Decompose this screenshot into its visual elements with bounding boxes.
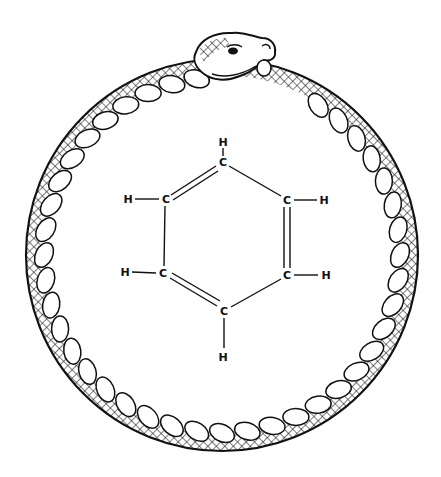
atom-c3: C <box>283 269 291 282</box>
atom-h6: H <box>123 193 132 206</box>
atom-c2: C <box>283 194 291 207</box>
serpent-head <box>194 33 275 80</box>
bonds <box>132 148 318 348</box>
benzene-molecule: C C C C C C H H H H H H <box>120 136 330 364</box>
ouroboros-illustration: C C C C C C H H H H H H <box>0 0 441 477</box>
serpent-eye-icon <box>228 48 238 55</box>
atom-c4: C <box>220 305 228 318</box>
atom-h2: H <box>319 194 328 207</box>
serpent-body <box>26 59 418 451</box>
atom-h1: H <box>218 136 227 149</box>
atom-h4: H <box>218 351 227 364</box>
belly-scale <box>283 408 309 425</box>
atom-h3: H <box>321 269 330 282</box>
belly-scale <box>375 168 392 194</box>
belly-scale <box>135 84 161 101</box>
atom-labels: C C C C C C H H H H H H <box>120 136 330 364</box>
belly-scale <box>51 316 68 342</box>
atom-c5: C <box>159 267 167 280</box>
atom-c1: C <box>219 156 227 169</box>
atom-h5: H <box>120 266 129 279</box>
atom-c6: C <box>162 193 170 206</box>
